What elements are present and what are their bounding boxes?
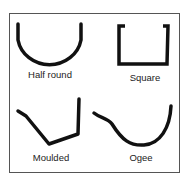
square-profile xyxy=(119,26,168,64)
square-label: Square xyxy=(130,72,161,83)
half-round-profile xyxy=(18,24,81,65)
ogee-profile xyxy=(94,106,171,145)
moulded-profile xyxy=(18,99,79,144)
profiles-drawing xyxy=(0,0,190,180)
moulded-label: Moulded xyxy=(33,152,69,163)
half-round-label: Half round xyxy=(28,69,72,80)
ogee-label: Ogee xyxy=(129,152,152,163)
